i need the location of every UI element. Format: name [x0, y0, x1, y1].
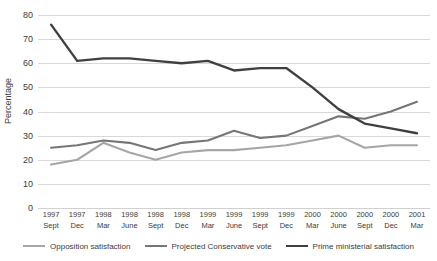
x-tick-year: 1998 — [90, 209, 116, 220]
x-tick-month: Mar — [90, 220, 116, 231]
x-tick-year: 2000 — [352, 209, 378, 220]
x-axis-tick-label: 2000Sept — [352, 209, 378, 235]
legend-swatch-icon — [286, 245, 308, 248]
series-lines — [38, 15, 430, 208]
plot-area — [38, 15, 430, 208]
x-tick-month: Dec — [273, 220, 299, 231]
y-axis-tick-label: 40 — [23, 107, 33, 117]
x-tick-month: Mar — [195, 220, 221, 231]
x-tick-month: June — [116, 220, 142, 231]
x-tick-month: Sept — [143, 220, 169, 231]
x-axis-tick-label: 1999June — [221, 209, 247, 235]
x-tick-month: Mar — [404, 220, 430, 231]
x-tick-month: Sept — [38, 220, 64, 231]
x-tick-month: Dec — [169, 220, 195, 231]
x-axis-tick-labels: 1997Sept1997Dec1998Mar1998June1998Sept19… — [38, 209, 430, 235]
chart-legend: Opposition satisfactionProjected Conserv… — [0, 238, 437, 254]
legend-swatch-icon — [145, 245, 167, 248]
x-axis-tick-label: 2000Mar — [299, 209, 325, 235]
y-axis-tick-labels: 80706050403020100 — [0, 0, 38, 208]
y-axis-tick-label: 60 — [23, 58, 33, 68]
x-tick-month: Dec — [378, 220, 404, 231]
legend-item[interactable]: Prime ministerial satisfaction — [286, 242, 414, 251]
x-axis-tick-label: 1997Dec — [64, 209, 90, 235]
x-axis-tick-label: 1999Mar — [195, 209, 221, 235]
x-axis-tick-label: 1999Dec — [273, 209, 299, 235]
x-axis-tick-label: 1999Sept — [247, 209, 273, 235]
x-axis-tick-label: 1998Sept — [143, 209, 169, 235]
y-axis-tick-label: 10 — [23, 179, 33, 189]
x-axis-tick-label: 1997Sept — [38, 209, 64, 235]
x-axis-tick-label: 1998Mar — [90, 209, 116, 235]
x-axis-tick-label: 2000Dec — [378, 209, 404, 235]
x-axis-tick-label: 1998Dec — [169, 209, 195, 235]
legend-item[interactable]: Opposition satisfaction — [23, 242, 131, 251]
x-tick-year: 2000 — [299, 209, 325, 220]
x-tick-year: 1998 — [116, 209, 142, 220]
x-tick-year: 1999 — [273, 209, 299, 220]
x-tick-year: 1998 — [169, 209, 195, 220]
x-tick-month: Mar — [299, 220, 325, 231]
y-axis-tick-label: 30 — [23, 131, 33, 141]
x-axis-tick-label: 2001Mar — [404, 209, 430, 235]
x-axis-tick-label: 1998June — [116, 209, 142, 235]
x-tick-month: Sept — [247, 220, 273, 231]
y-axis-tick-label: 20 — [23, 155, 33, 165]
legend-label: Opposition satisfaction — [50, 242, 131, 251]
legend-item[interactable]: Projected Conservative vote — [145, 242, 272, 251]
x-tick-year: 1998 — [143, 209, 169, 220]
x-tick-year: 2001 — [404, 209, 430, 220]
y-axis-tick-label: 50 — [23, 82, 33, 92]
x-tick-month: June — [221, 220, 247, 231]
legend-swatch-icon — [23, 245, 45, 248]
y-axis-tick-label: 0 — [28, 203, 33, 213]
x-tick-year: 1999 — [195, 209, 221, 220]
line-chart: Percentage 80706050403020100 1997Sept199… — [0, 0, 437, 261]
y-axis-tick-label: 70 — [23, 34, 33, 44]
x-tick-year: 1997 — [38, 209, 64, 220]
x-tick-year: 1997 — [64, 209, 90, 220]
x-tick-month: June — [326, 220, 352, 231]
legend-label: Prime ministerial satisfaction — [313, 242, 414, 251]
x-tick-year: 1999 — [247, 209, 273, 220]
x-axis-tick-label: 2000June — [326, 209, 352, 235]
legend-label: Projected Conservative vote — [172, 242, 272, 251]
x-tick-year: 2000 — [378, 209, 404, 220]
series-line — [51, 25, 417, 134]
x-tick-month: Sept — [352, 220, 378, 231]
x-tick-month: Dec — [64, 220, 90, 231]
y-axis-tick-label: 80 — [23, 10, 33, 20]
x-tick-year: 1999 — [221, 209, 247, 220]
x-tick-year: 2000 — [326, 209, 352, 220]
